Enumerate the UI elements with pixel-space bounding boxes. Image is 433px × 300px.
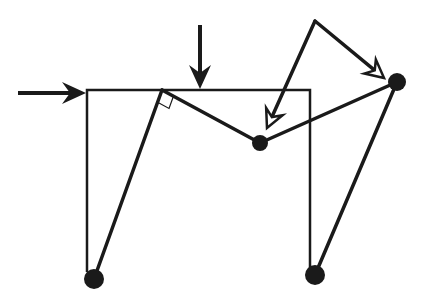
diagram-svg bbox=[0, 0, 433, 300]
ball-right-icon bbox=[388, 73, 406, 91]
diagram-canvas bbox=[0, 0, 433, 300]
apex-to-ball-middle-arrow-shaft bbox=[272, 21, 315, 117]
link-C-E bbox=[315, 82, 397, 275]
ball-middle-icon bbox=[252, 135, 268, 151]
ball-bottom-right-icon bbox=[305, 265, 325, 285]
link-A-B bbox=[162, 90, 260, 143]
ball-bottom-left-icon bbox=[84, 269, 104, 289]
apex-to-ball-right-arrow-shaft bbox=[315, 21, 375, 70]
link-D-A bbox=[94, 90, 162, 279]
